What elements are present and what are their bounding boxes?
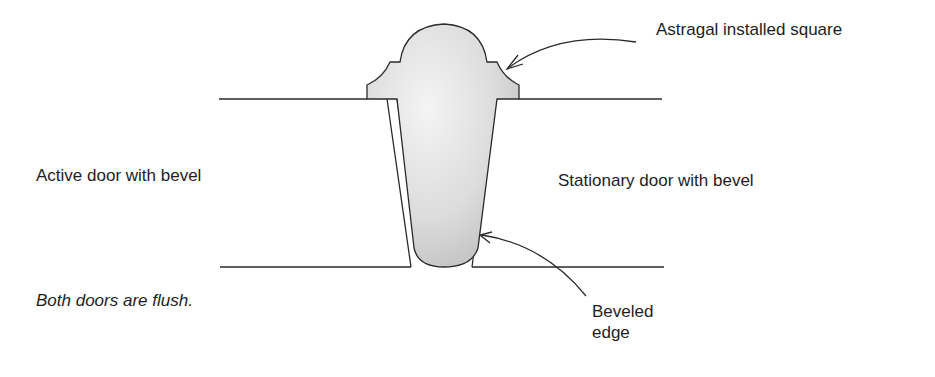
astragal-shape xyxy=(367,24,519,267)
caption-flush: Both doors are flush. xyxy=(36,290,193,311)
astragal-leader-arrow xyxy=(507,39,636,69)
active-door-label: Active door with bevel xyxy=(36,165,201,186)
door-astragal-diagram xyxy=(0,0,935,377)
beveled-edge-label-line2: edge xyxy=(592,322,630,343)
beveled-edge-label-line1: Beveled xyxy=(592,301,653,322)
stationary-door-label: Stationary door with bevel xyxy=(558,170,754,191)
beveled-edge-leader-arrow xyxy=(480,232,586,296)
astragal-label: Astragal installed square xyxy=(656,19,842,40)
